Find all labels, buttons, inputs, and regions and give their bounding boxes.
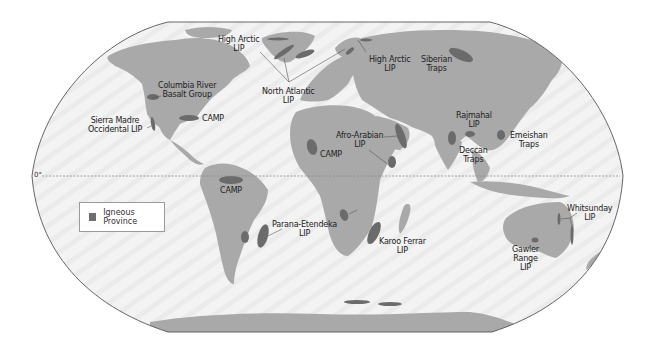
province-whitsunday-2 [571, 225, 574, 245]
label-deccan: DeccanTraps [459, 146, 488, 164]
province-camp-sa [219, 176, 243, 184]
label-camp-africa: CAMP [320, 150, 342, 159]
province-parana [241, 231, 249, 243]
label-columbia-river: Columbia RiverBasalt Group [158, 81, 216, 99]
province-gawler-range [532, 238, 539, 243]
province-emeishan [497, 130, 505, 140]
legend-label: Igneous Province [103, 208, 164, 226]
world-map [0, 0, 652, 353]
province-camp-na [179, 115, 199, 121]
label-emeishan: EmeishanTraps [510, 131, 548, 149]
province-antarctic-ferrar-1 [344, 300, 370, 304]
label-high-arctic-east: High ArcticLIP [369, 55, 410, 73]
label-whitsunday: WhitsundayLIP [567, 204, 612, 222]
province-high-arctic-east [360, 39, 372, 42]
province-high-arctic-west [267, 38, 289, 41]
label-karoo-ferrar: Karoo FerrarLIP [379, 237, 426, 255]
label-gawler-range: GawlerRangeLIP [512, 245, 539, 272]
label-north-atlantic: North AtlanticLIP [262, 87, 315, 105]
label-sierra-madre: Sierra MadreOccidental LIP [88, 116, 142, 134]
province-rajmahal [465, 131, 475, 137]
province-afro-arabian-ethiopia [388, 156, 396, 168]
label-high-arctic-west: High ArcticLIP [218, 35, 259, 53]
label-siberian-traps: SiberianTraps [421, 55, 452, 73]
legend-swatch-igneous [89, 213, 96, 221]
label-afro-arabian: Afro-ArabianLIP [336, 131, 383, 149]
label-parana-etendeka: Parana-EtendekaLIP [272, 220, 337, 238]
antarctica [150, 312, 520, 340]
legend: Igneous Province [79, 202, 165, 232]
label-rajmahal: RajmahalLIP [456, 111, 492, 129]
label-camp-na: CAMP [202, 114, 224, 123]
province-deccan [448, 131, 456, 145]
province-whitsunday-1 [558, 213, 561, 225]
label-camp-sa: CAMP [220, 186, 242, 195]
province-antarctic-ferrar-2 [378, 302, 402, 306]
equator-label: 0° [34, 171, 42, 179]
